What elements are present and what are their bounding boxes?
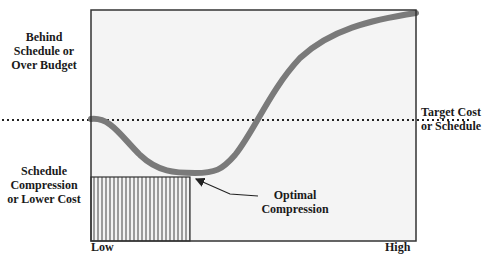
x-label-high: High [385,240,410,254]
compression-region [91,177,190,241]
label-line: Schedule [4,164,84,178]
optimal-compression-label: Optimal Compression [250,188,340,216]
target-cost-label: Target Cost or Schedule [421,105,481,133]
label-line: or Lower Cost [4,192,84,206]
label-line: Behind [4,30,84,44]
label-line: Compression [4,178,84,192]
x-label-low: Low [91,240,114,254]
label-line: Compression [250,202,340,216]
label-line: Optimal [250,188,340,202]
y-label-schedule-compression: Schedule Compression or Lower Cost [4,164,84,206]
label-line: Target Cost [421,105,481,119]
label-line: or Schedule [421,119,481,133]
label-line: Over Budget [4,58,84,72]
y-label-behind-schedule: Behind Schedule or Over Budget [4,30,84,72]
label-line: Schedule or [4,44,84,58]
